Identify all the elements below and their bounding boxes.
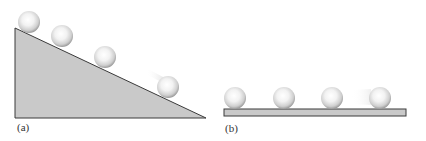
physics-diagram: (a) (b): [0, 0, 426, 141]
ball-a-4: [157, 76, 179, 98]
ball-a-1: [18, 11, 40, 33]
ball-b-3: [321, 87, 343, 109]
ball-b-1: [224, 87, 246, 109]
inclined-plane: [15, 28, 206, 118]
ball-b-4: [369, 87, 391, 109]
panel-a: (a): [15, 11, 206, 134]
motion-streak: [352, 89, 371, 105]
panel-b-label: (b): [225, 122, 238, 135]
ball-a-3: [94, 46, 116, 68]
horizontal-surface: [224, 109, 406, 116]
panel-b: (b): [224, 87, 406, 135]
ball-a-2: [51, 25, 73, 47]
panel-a-label: (a): [17, 121, 30, 134]
ball-b-2: [273, 87, 295, 109]
